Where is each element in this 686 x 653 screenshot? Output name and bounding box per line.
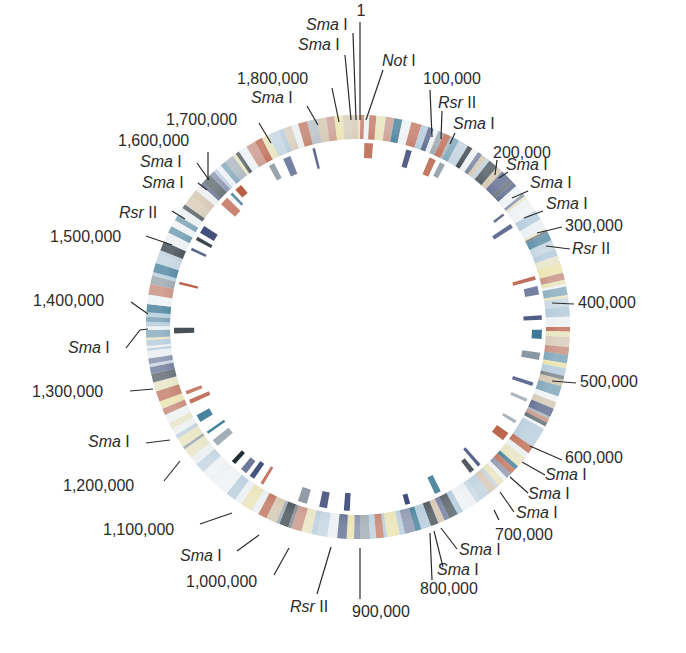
enzyme-name: Sma (528, 485, 561, 502)
enzyme-name: Sma (546, 195, 579, 212)
enzyme-name: Sma (453, 115, 486, 132)
position-label: 1,400,000 (33, 292, 104, 309)
enzyme-suffix: I (173, 153, 182, 170)
enzyme-name: Sma (140, 153, 173, 170)
enzyme-name: Sma (437, 561, 470, 578)
enzyme-name: Sma (506, 156, 539, 173)
position-label: 1,500,000 (50, 228, 121, 245)
restriction-site-label: Sma I (142, 174, 184, 191)
leader-line-sma-l1 (237, 535, 259, 551)
circular-genome-map: 1Sma INot ISma I1,800,000Sma I1,700,0001… (0, 0, 686, 653)
enzyme-name: Sma (68, 339, 101, 356)
enzyme-suffix: I (213, 547, 222, 564)
leader-line-rsr3 (317, 547, 331, 594)
enzyme-name: Sma (180, 547, 213, 564)
position-label: 1,800,000 (237, 70, 308, 87)
restriction-site-label: Sma I (140, 153, 182, 170)
restriction-site-label: Rsr II (290, 598, 328, 615)
enzyme-name: Sma (298, 36, 331, 53)
enzyme-suffix: I (578, 466, 587, 483)
restriction-site-label: Rsr II (119, 204, 157, 221)
leader-line-sma-l2 (146, 440, 170, 443)
enzyme-name: Rsr (119, 204, 145, 221)
restriction-site-label: Sma I (180, 547, 222, 564)
restriction-site-label: Sma I (545, 466, 587, 483)
enzyme-suffix: II (144, 204, 157, 221)
label-leader-lines (126, 22, 576, 599)
outer-ring-gene-bands (146, 115, 570, 539)
enzyme-suffix: II (315, 598, 328, 615)
position-label: 1 (357, 2, 366, 19)
enzyme-name: Not (382, 52, 407, 69)
restriction-site-label: Sma I (528, 485, 570, 502)
enzyme-name: Sma (251, 89, 284, 106)
leader-line-p1200 (164, 461, 180, 481)
restriction-site-label: Sma I (530, 174, 572, 191)
enzyme-name: Sma (306, 16, 339, 33)
restriction-site-label: Sma I (251, 89, 293, 106)
restriction-site-label: Sma I (68, 339, 110, 356)
leader-line-p1100 (200, 513, 232, 524)
position-label: 400,000 (578, 294, 636, 311)
leader-line-sma-b3 (500, 492, 514, 512)
enzyme-name: Rsr (572, 240, 598, 257)
position-label: 800,000 (420, 580, 478, 597)
position-label: 700,000 (495, 526, 553, 543)
leader-line-p1400 (131, 302, 148, 314)
enzyme-name: Sma (516, 504, 549, 521)
enzyme-suffix: I (470, 561, 479, 578)
enzyme-suffix: I (561, 485, 570, 502)
enzyme-suffix: I (549, 504, 558, 521)
position-label: 1,200,000 (63, 477, 134, 494)
enzyme-suffix: I (492, 541, 501, 558)
position-label: 1,600,000 (118, 132, 189, 149)
enzyme-suffix: II (597, 240, 610, 257)
enzyme-suffix: I (121, 433, 130, 450)
leader-line-p700 (494, 510, 499, 520)
position-label: 600,000 (565, 449, 623, 466)
enzyme-name: Sma (142, 174, 175, 191)
position-label: 1,300,000 (32, 383, 103, 400)
leader-line-not1 (366, 70, 383, 120)
position-label: 1,700,000 (166, 111, 237, 128)
restriction-site-label: Sma I (306, 16, 348, 33)
enzyme-name: Rsr (438, 94, 464, 111)
restriction-site-label: Rsr II (572, 240, 610, 257)
leader-line-p600 (530, 446, 562, 460)
position-label: 100,000 (423, 70, 481, 87)
restriction-site-label: Rsr II (438, 94, 476, 111)
inner-gene-ticks (174, 143, 542, 511)
enzyme-name: Sma (530, 174, 563, 191)
restriction-site-label: Sma I (516, 504, 558, 521)
enzyme-suffix: I (175, 174, 184, 191)
enzyme-name: Sma (545, 466, 578, 483)
leader-line-sma-top1 (353, 33, 356, 120)
restriction-site-label: Not I (382, 52, 416, 69)
leader-line-p1000 (274, 548, 289, 575)
restriction-site-label: Sma I (546, 195, 588, 212)
position-label: 1,100,000 (103, 521, 174, 538)
enzyme-name: Sma (459, 541, 492, 558)
enzyme-name: Sma (88, 433, 121, 450)
leader-line-p1300 (130, 389, 153, 391)
enzyme-suffix: I (563, 174, 572, 191)
enzyme-suffix: I (539, 156, 548, 173)
restriction-site-label: Sma I (453, 115, 495, 132)
enzyme-suffix: I (284, 89, 293, 106)
leader-line-sma-top2 (345, 55, 351, 120)
leader-line-sma-b2 (510, 477, 528, 493)
enzyme-suffix: I (579, 195, 588, 212)
leader-line-p800 (430, 533, 432, 580)
position-label: 1,000,000 (186, 573, 257, 590)
position-label: 900,000 (352, 603, 410, 620)
enzyme-suffix: I (339, 16, 348, 33)
restriction-site-label: Sma I (459, 541, 501, 558)
leader-line-sma-b1 (522, 462, 545, 475)
position-label: 300,000 (565, 217, 623, 234)
position-label: 500,000 (580, 373, 638, 390)
enzyme-name: Rsr (290, 598, 316, 615)
leader-line-sma-l3 (126, 329, 148, 348)
leader-line-sma-l5 (197, 163, 209, 180)
restriction-site-label: Sma I (437, 561, 479, 578)
enzyme-suffix: I (331, 36, 340, 53)
